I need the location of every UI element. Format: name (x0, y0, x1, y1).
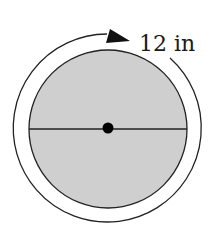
center-point (103, 123, 114, 134)
circle-diagram: 12 in (0, 0, 217, 227)
arrowhead-icon (106, 29, 130, 43)
circumference-label: 12 in (139, 31, 195, 56)
diagram-canvas: 12 in (0, 0, 217, 227)
